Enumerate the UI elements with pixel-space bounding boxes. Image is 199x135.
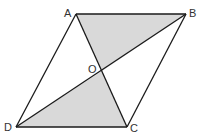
vertex-label-d: D <box>4 121 12 133</box>
shaded-triangle-doc <box>16 71 127 127</box>
vertex-label-a: A <box>64 7 72 19</box>
parallelogram-diagram: A B O D C <box>0 0 199 135</box>
vertex-label-b: B <box>189 7 196 19</box>
vertex-label-o: O <box>88 63 97 75</box>
vertex-label-c: C <box>130 122 138 134</box>
